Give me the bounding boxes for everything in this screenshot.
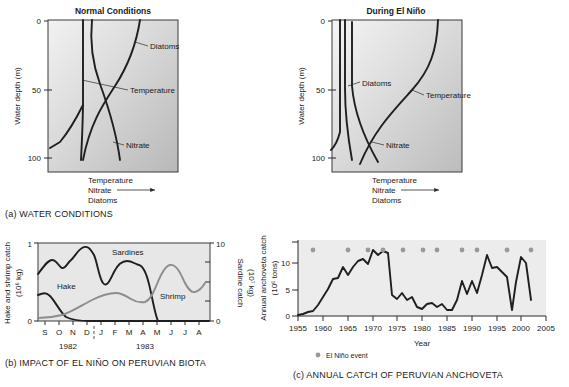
caption-panel-b: (b) IMPACT OF EL NIÑO ON PERUVIAN BIOTA — [5, 358, 206, 368]
xtick-b-J3: J — [183, 328, 187, 337]
xtick-c-1995: 1995 — [488, 324, 506, 333]
figure-svg: Normal Conditions 0 50 100 Water depth (… — [0, 0, 569, 387]
ytick-label-c-0: 0 — [286, 312, 291, 321]
ytick-label-b-left-0: 0 — [28, 317, 33, 326]
xlegend-a-left-temperature: Temperature — [88, 176, 133, 185]
year-label-b-1982: 1982 — [59, 342, 77, 351]
panel-a-left-title: Normal Conditions — [75, 6, 151, 16]
xlegend-a-left-diatoms: Diatoms — [88, 196, 117, 205]
xlegend-a-left-nitrate: Nitrate — [88, 186, 112, 195]
ytick-label-b-left-1: 1 — [28, 240, 33, 249]
panel-c-xticks — [298, 316, 546, 321]
xtick-b-S: S — [42, 328, 47, 337]
ytick-label-a-right-0: 0 — [321, 17, 326, 26]
ytick-label-a-left-50: 50 — [32, 86, 41, 95]
ylabel-c: Annual anchoveta catch — [259, 235, 268, 320]
el-nino-dot-1997 — [505, 248, 510, 253]
xtick-c-1975: 1975 — [388, 324, 406, 333]
label-a-left-nitrate: Nitrate — [126, 141, 150, 150]
panel-b: 1 0 Hake and shrimp catch (10⁶ kg) 10 0 … — [3, 240, 256, 351]
label-b-hake: Hake — [57, 282, 76, 291]
label-a-left-temperature: Temperature — [130, 86, 175, 95]
ytick-label-c-10: 10 — [281, 259, 290, 268]
label-a-right-nitrate: Nitrate — [386, 141, 410, 150]
xtick-c-2000: 2000 — [512, 324, 530, 333]
xtick-c-1985: 1985 — [438, 324, 456, 333]
xtick-b-F: F — [113, 328, 118, 337]
el-nino-dot-1958 — [311, 248, 316, 253]
ylabel-a-left: Water depth (m) — [13, 67, 22, 125]
xtick-c-2005: 2005 — [537, 324, 555, 333]
year-label-b-1983: 1983 — [136, 342, 154, 351]
ytick-label-b-right-0: 0 — [216, 317, 221, 326]
ylabel-b-left-units: (10⁶ kg) — [14, 269, 23, 298]
ytick-label-a-right-50: 50 — [316, 86, 325, 95]
xtick-b-J2: J — [169, 328, 173, 337]
panel-a-left: Normal Conditions 0 50 100 Water depth (… — [13, 6, 179, 205]
ytick-label-a-left-0: 0 — [37, 17, 42, 26]
xtick-c-1965: 1965 — [339, 324, 357, 333]
xtick-c-1990: 1990 — [463, 324, 481, 333]
el-nino-dot-1976 — [401, 248, 406, 253]
xlabel-c: Year — [414, 339, 431, 348]
ylabel-a-right: Water depth (m) — [297, 67, 306, 125]
panel-c: 10 5 0 Annual anchoveta catch (10⁶ tons)… — [259, 235, 555, 359]
ytick-label-a-left-100: 100 — [28, 154, 42, 163]
ytick-label-c-5: 5 — [286, 286, 291, 295]
label-a-left-diatoms: Diatoms — [150, 42, 179, 51]
xtick-b-M1: M — [126, 328, 133, 337]
ylabel-c-units: (10⁶ tons) — [270, 260, 279, 295]
label-a-right-diatoms: Diatoms — [362, 79, 391, 88]
ytick-label-b-right-10: 10 — [216, 240, 225, 249]
label-b-shrimp: Shrimp — [160, 292, 186, 301]
panel-a-right-title: During El Niño — [366, 6, 425, 16]
el-nino-dot-1982 — [421, 248, 426, 253]
el-nino-dot-1965 — [346, 248, 351, 253]
caption-panel-a: (a) WATER CONDITIONS — [5, 209, 113, 219]
xtick-b-A1: A — [140, 328, 146, 337]
xtick-c-1960: 1960 — [314, 324, 332, 333]
panel-a-right: During El Niño 0 50 100 Water depth (m) … — [297, 6, 471, 205]
xtick-b-J1: J — [99, 328, 103, 337]
ylabel-b-right-units: (10⁷ kg) — [247, 269, 256, 297]
xlegend-a-right-temperature: Temperature — [372, 176, 417, 185]
xtick-b-A2: A — [196, 328, 202, 337]
legend-dot-el-nino — [316, 353, 321, 358]
el-nino-dot-1972 — [381, 248, 386, 253]
el-nino-dot-2002 — [529, 248, 534, 253]
xtick-c-1955: 1955 — [289, 324, 307, 333]
xlegend-a-right-diatoms: Diatoms — [372, 196, 401, 205]
ylabel-b-left: Hake and shrimp catch — [3, 242, 12, 324]
el-nino-dot-1987 — [460, 248, 465, 253]
xlegend-a-right-nitrate: Nitrate — [372, 186, 396, 195]
el-nino-dot-1984 — [435, 248, 440, 253]
label-b-sardines: Sardines — [112, 248, 144, 257]
el-nino-dot-1991 — [475, 248, 480, 253]
xtick-c-1980: 1980 — [413, 324, 431, 333]
legend-label-el-nino: El Niño event — [326, 352, 368, 359]
label-a-right-temperature: Temperature — [426, 91, 471, 100]
xtick-b-O: O — [56, 328, 62, 337]
xtick-b-M2: M — [154, 328, 161, 337]
ylabel-b-right: Sardine catch — [236, 259, 245, 308]
xtick-b-D: D — [84, 328, 90, 337]
el-nino-dot-1969 — [366, 248, 371, 253]
xtick-c-1970: 1970 — [364, 324, 382, 333]
ytick-label-a-right-100: 100 — [312, 154, 326, 163]
figure-root: Normal Conditions 0 50 100 Water depth (… — [0, 0, 569, 387]
xtick-b-N: N — [70, 328, 76, 337]
caption-panel-c: (c) ANNUAL CATCH OF PERUVIAN ANCHOVETA — [293, 370, 503, 380]
